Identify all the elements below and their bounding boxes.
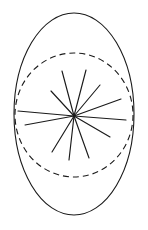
ray-10 <box>74 116 89 158</box>
ray-8 <box>25 116 74 125</box>
ray-6 <box>18 111 74 116</box>
ray-9 <box>74 116 110 137</box>
ellipse-star-figure <box>0 0 148 230</box>
diagram-canvas <box>0 0 148 230</box>
ray-7 <box>74 116 126 120</box>
radiating-ray-group <box>18 70 126 160</box>
